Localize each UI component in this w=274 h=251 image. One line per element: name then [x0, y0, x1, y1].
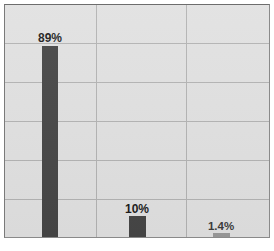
bar-2-value-label: 10%: [117, 203, 157, 216]
bar-chart-figure: 89% 10% 1.4%: [0, 0, 274, 251]
plot-frame: 89% 10% 1.4%: [4, 4, 270, 238]
plot-area: 89% 10% 1.4%: [5, 5, 269, 237]
bar-2: [129, 216, 146, 237]
bar-1: [42, 46, 58, 237]
bar-1-value-label: 89%: [30, 32, 70, 45]
bar-3: [213, 233, 230, 237]
gridline-vertical: [186, 5, 187, 237]
gridline-vertical: [96, 5, 97, 237]
bar-3-value-label: 1.4%: [198, 220, 244, 233]
